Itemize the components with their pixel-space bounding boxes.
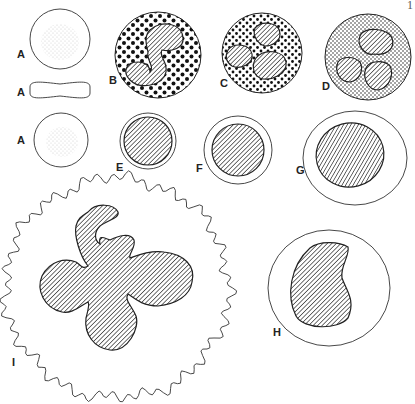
label-a3: A <box>17 134 25 146</box>
label-a1: A <box>17 48 25 60</box>
nucleus <box>212 124 264 176</box>
label-b: B <box>109 74 117 86</box>
cell-b-granulocyte: B <box>109 12 201 98</box>
label-c: C <box>220 77 228 89</box>
label-f: F <box>196 162 203 174</box>
cell-d-granulocyte: D <box>322 14 411 100</box>
cell-a3-erythrocyte: A <box>17 113 88 167</box>
central-pallor <box>46 127 78 157</box>
label-e: E <box>116 161 123 173</box>
cell-f-lymphocyte: F <box>196 116 272 184</box>
cell-a1-erythrocyte: A <box>17 9 90 69</box>
cell-c-granulocyte: C <box>220 13 302 93</box>
label-i: I <box>12 356 15 368</box>
central-pallor <box>41 24 79 60</box>
nucleus-lobe <box>337 58 362 83</box>
nucleus-lobe <box>254 23 280 46</box>
cell-g-large-lymphocyte: G <box>296 111 407 205</box>
cell-a2-erythrocyte-side: A <box>17 82 90 98</box>
cell-e-small-lymphocyte: E <box>116 113 176 173</box>
label-h: H <box>273 326 281 338</box>
cytoplasm-granules <box>325 14 411 100</box>
label-g: G <box>296 164 305 176</box>
nucleus <box>124 117 172 165</box>
label-d: D <box>322 80 330 92</box>
cell-i-megakaryocyte: I <box>0 171 237 402</box>
cell-membrane <box>30 82 90 98</box>
label-a2: A <box>17 86 25 98</box>
nucleus-lobe <box>359 29 393 54</box>
cell-h-monocyte: H <box>268 230 390 346</box>
blood-cell-diagram: A A A B C D E F <box>0 0 415 404</box>
nucleus-lobe <box>226 45 252 67</box>
